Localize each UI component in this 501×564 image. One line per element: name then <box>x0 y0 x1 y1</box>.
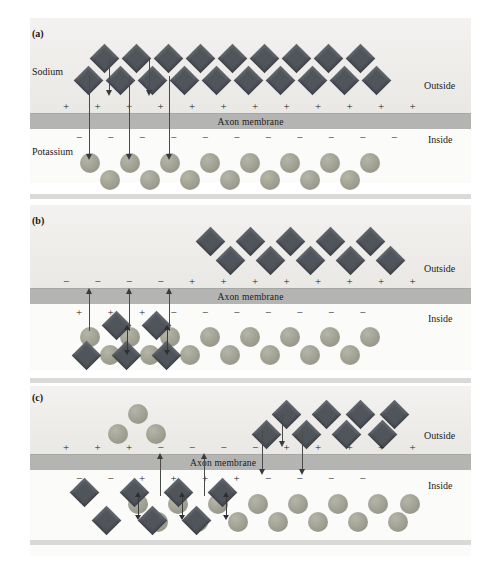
inside-charge-b-8: − <box>326 307 336 318</box>
outside-charge-a-5: + <box>219 101 229 112</box>
outside-charge-c-0: + <box>61 442 71 453</box>
inside-charge-c-1: − <box>106 473 116 484</box>
potassium-ion-inside-low-4 <box>260 170 280 190</box>
potassium-ion-inside-up-4 <box>240 153 260 173</box>
outside-charge-c-4: − <box>187 442 197 453</box>
outside-label-b: Outside <box>424 263 455 274</box>
membrane-label-a: Axon membrane <box>30 118 471 128</box>
ion-exchange-arrow-1 <box>167 329 168 351</box>
ion-exchange-arrow-1 <box>182 496 183 516</box>
inside-charge-a-10: − <box>389 132 399 143</box>
potassium-ion-inside-low-6 <box>340 345 360 365</box>
sodium-influx-arrow-2 <box>169 76 170 155</box>
inside-charge-b-6: − <box>263 307 273 318</box>
sodium-influx-arrow-1 <box>302 430 303 470</box>
potassium-ion-inside-up-7 <box>360 153 380 173</box>
potassium-ion-inside-up-5 <box>328 494 348 514</box>
potassium-ion-inside-low-4 <box>308 512 328 532</box>
inside-charge-c-9: − <box>358 473 368 484</box>
potassium-ion-inside-low-6 <box>340 170 360 190</box>
sodium-label: Sodium <box>32 66 63 77</box>
inside-charge-c-5: + <box>232 473 242 484</box>
inside-charge-c-4: + <box>200 473 210 484</box>
panel-a: Axon membrane (a) Sodium Potassium Outsi… <box>0 18 501 183</box>
outside-charge-b-7: + <box>282 276 292 287</box>
sodium-drift-arrow-1 <box>149 58 150 91</box>
outside-charge-b-6: + <box>250 276 260 287</box>
outside-charge-a-4: + <box>187 101 197 112</box>
potassium-ion-inside-up-3 <box>200 153 220 173</box>
inside-charge-a-6: − <box>263 132 273 143</box>
potassium-ion-inside-up-6 <box>368 494 388 514</box>
inside-charge-b-2: + <box>137 307 147 318</box>
inside-charge-a-0: − <box>74 132 84 143</box>
potassium-ion-inside-low-2 <box>228 512 248 532</box>
potassium-ion-inside-up-6 <box>320 153 340 173</box>
outside-charge-c-6: − <box>250 442 260 453</box>
sodium-influx-arrow-1 <box>129 76 130 155</box>
potassium-ion-inside-low-3 <box>220 345 240 365</box>
potassium-ion-inside-up-4 <box>240 327 260 347</box>
inside-label-c: Inside <box>428 480 452 491</box>
outside-charge-b-4: + <box>187 276 197 287</box>
potassium-ion-inside-up-7 <box>400 494 420 514</box>
potassium-efflux-arrow-1 <box>204 458 205 496</box>
inside-charge-b-3: − <box>169 307 179 318</box>
inside-charge-a-2: − <box>137 132 147 143</box>
panel-label-b: (b) <box>32 215 44 226</box>
outside-label-a: Outside <box>424 80 455 91</box>
potassium-ion-inside-low-5 <box>300 170 320 190</box>
inside-label-b: Inside <box>428 313 452 324</box>
outside-charge-b-11: + <box>408 276 418 287</box>
potassium-ion-inside-low-5 <box>300 345 320 365</box>
potassium-ion-inside-low-3 <box>268 512 288 532</box>
outside-charge-c-11: + <box>408 442 418 453</box>
inside-charge-b-9: − <box>358 307 368 318</box>
outside-charge-a-9: + <box>345 101 355 112</box>
inside-charge-a-8: − <box>326 132 336 143</box>
outside-charge-b-1: − <box>93 276 103 287</box>
outside-charge-c-2: + <box>124 442 134 453</box>
potassium-ion-outside-1 <box>108 424 128 444</box>
potassium-ion-inside-low-6 <box>388 512 408 532</box>
inside-charge-b-0: + <box>74 307 84 318</box>
outside-charge-c-10: + <box>376 442 386 453</box>
potassium-ion-inside-low-2 <box>180 345 200 365</box>
outside-charge-c-8: + <box>313 442 323 453</box>
outside-charge-c-1: + <box>93 442 103 453</box>
sodium-drift-arrow-0 <box>282 414 283 442</box>
potassium-ion-inside-low-2 <box>180 170 200 190</box>
potassium-ion-inside-up-5 <box>280 153 300 173</box>
outside-charge-a-10: + <box>376 101 386 112</box>
membrane-label-c: Axon membrane <box>190 459 471 469</box>
potassium-ion-inside-low-0 <box>100 170 120 190</box>
figure-canvas: Axon membrane (a) Sodium Potassium Outsi… <box>0 0 501 564</box>
ion-exchange-arrow-0 <box>127 329 128 351</box>
outside-charge-c-5: − <box>219 442 229 453</box>
potassium-ion-inside-up-7 <box>360 327 380 347</box>
outside-charge-b-2: − <box>124 276 134 287</box>
potassium-ion-inside-low-4 <box>260 345 280 365</box>
sodium-influx-arrow-0 <box>89 76 90 155</box>
outside-charge-a-1: + <box>93 101 103 112</box>
inside-charge-a-9: − <box>358 132 368 143</box>
panel-label-a: (a) <box>32 28 44 39</box>
outside-charge-a-8: + <box>313 101 323 112</box>
inside-charge-a-5: − <box>232 132 242 143</box>
potassium-ion-inside-low-5 <box>348 512 368 532</box>
potassium-efflux-arrow-0 <box>160 458 161 496</box>
potassium-ion-inside-up-6 <box>320 327 340 347</box>
outside-charge-b-0: − <box>61 276 71 287</box>
inside-charge-b-5: − <box>232 307 242 318</box>
inside-charge-a-1: − <box>106 132 116 143</box>
inside-charge-b-7: − <box>295 307 305 318</box>
outside-charge-b-5: + <box>219 276 229 287</box>
outside-label-c: Outside <box>424 430 455 441</box>
inside-charge-b-4: − <box>200 307 210 318</box>
ion-exchange-arrow-2 <box>226 496 227 516</box>
potassium-efflux-arrow-0 <box>89 293 90 331</box>
potassium-ion-inside-up-5 <box>280 327 300 347</box>
inside-charge-a-3: − <box>169 132 179 143</box>
panel-divider-1 <box>30 194 471 199</box>
inside-charge-a-4: − <box>200 132 210 143</box>
